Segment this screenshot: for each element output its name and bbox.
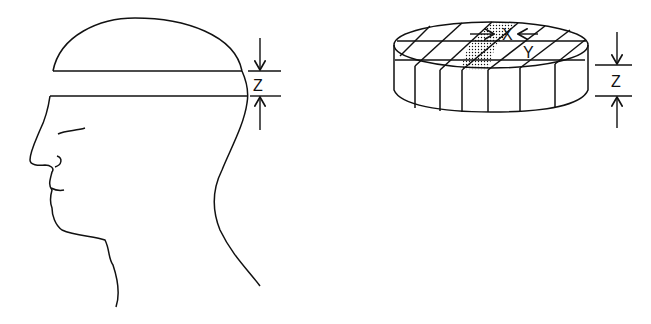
disc-cylinder	[394, 22, 588, 112]
head-z-label: Z	[253, 77, 263, 94]
disc-x-label: X	[502, 26, 513, 43]
disc-y-label: Y	[523, 44, 534, 61]
diagram-canvas: Z X Y Z	[0, 0, 651, 324]
disc-z-label: Z	[611, 73, 621, 90]
head-profile	[30, 18, 260, 307]
